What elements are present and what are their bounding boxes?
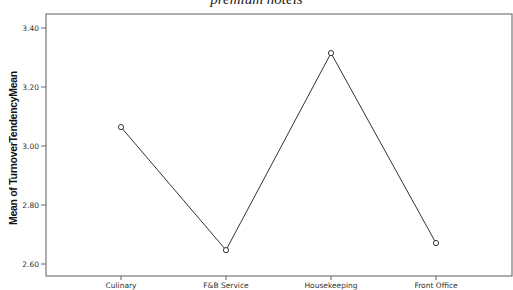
y-tick-label: 2.60 xyxy=(22,260,39,269)
line-chart: 2.602.803.003.203.40 CulinaryF&B Service… xyxy=(0,0,513,290)
data-point-marker xyxy=(328,50,333,55)
y-axis: 2.602.803.003.203.40 xyxy=(22,24,46,269)
x-tick-label: Culinary xyxy=(105,281,137,290)
plot-frame xyxy=(46,14,512,276)
y-tick-label: 3.20 xyxy=(22,83,39,92)
x-tick-label: Housekeeping xyxy=(304,281,357,290)
data-point-marker xyxy=(223,248,228,253)
y-tick-label: 3.40 xyxy=(22,24,39,33)
data-point-marker xyxy=(118,125,123,130)
y-tick-label: 2.80 xyxy=(22,201,39,210)
y-tick-label: 3.00 xyxy=(22,142,39,151)
x-axis: CulinaryF&B ServiceHousekeepingFront Off… xyxy=(105,276,458,290)
data-point-marker xyxy=(433,240,438,245)
x-tick-label: F&B Service xyxy=(203,281,249,290)
x-tick-label: Front Office xyxy=(414,281,458,290)
